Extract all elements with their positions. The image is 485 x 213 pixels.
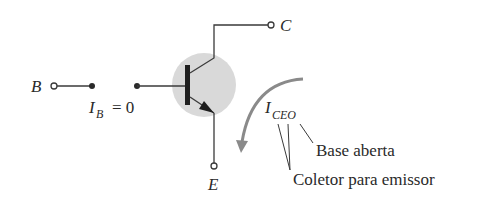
- iceo-symbol: I: [264, 98, 272, 117]
- base-terminal-node: [51, 83, 57, 89]
- open-switch-dot-left: [89, 83, 95, 89]
- iceo-subscript: CEO: [272, 108, 296, 122]
- open-base-annotation: Base aberta: [316, 141, 395, 160]
- iceo-label: I CEO: [264, 98, 296, 122]
- iceo-arrowhead-icon: [236, 140, 248, 153]
- base-terminal-label: B: [31, 77, 42, 96]
- emitter-terminal-node: [211, 163, 217, 169]
- collector-to-emitter-annotation: Coletor para emissor: [293, 170, 435, 189]
- transistor-diagram: B I B = 0 C E I CEO Base aberta Coletor …: [0, 0, 485, 213]
- transistor-base-bar: [185, 65, 190, 105]
- collector-terminal-node: [268, 22, 274, 28]
- collector-terminal-label: C: [280, 16, 292, 35]
- leader-line-open-base: [300, 124, 313, 143]
- base-current-symbol: I: [88, 98, 96, 117]
- base-current-value: = 0: [112, 98, 134, 117]
- base-current-label: I B = 0: [88, 98, 134, 121]
- base-current-subscript: B: [96, 107, 104, 121]
- emitter-terminal-label: E: [207, 175, 219, 194]
